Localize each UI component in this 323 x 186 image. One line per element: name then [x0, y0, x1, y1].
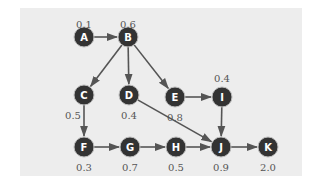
node-label: H: [172, 142, 180, 153]
node-label: C: [80, 90, 87, 101]
node-label: J: [218, 142, 223, 153]
node-value: 0.5: [168, 162, 184, 173]
node-value: 0.5: [65, 110, 81, 121]
node-label: I: [220, 92, 224, 103]
node-h: H0.5: [166, 137, 186, 173]
nodes-layer: A0.1B0.6C0.5D0.4E0.8I0.4F0.3G0.7H0.5J0.9…: [65, 19, 278, 173]
node-value: 0.8: [167, 112, 183, 123]
node-label: F: [81, 142, 88, 153]
dag-graph: A0.1B0.6C0.5D0.4E0.8I0.4F0.3G0.7H0.5J0.9…: [0, 0, 323, 186]
node-b: B0.6: [118, 19, 138, 48]
node-value: 0.7: [122, 162, 138, 173]
node-a: A0.1: [74, 19, 94, 48]
node-label: E: [172, 92, 179, 103]
node-f: F0.3: [74, 137, 94, 173]
node-c: C0.5: [65, 85, 94, 121]
node-label: D: [125, 90, 133, 101]
node-value: 0.1: [76, 19, 92, 30]
node-e: E0.8: [165, 87, 185, 123]
node-value: 0.4: [121, 110, 137, 121]
node-j: J0.9: [211, 137, 231, 173]
node-label: G: [126, 142, 134, 153]
edge-b-c: [91, 45, 122, 86]
node-value: 0.4: [214, 73, 230, 84]
node-label: K: [264, 142, 273, 153]
node-value: 0.3: [76, 162, 92, 173]
node-label: B: [124, 32, 132, 43]
node-k: K2.0: [258, 137, 278, 173]
edge-b-d: [128, 47, 129, 84]
node-g: G0.7: [120, 137, 140, 173]
edge-i-j: [221, 107, 222, 136]
node-d: D0.4: [119, 85, 139, 121]
node-value: 0.6: [120, 19, 136, 30]
node-i: I0.4: [212, 73, 232, 108]
edge-b-e: [134, 45, 168, 88]
node-label: A: [80, 32, 88, 43]
node-value: 0.9: [213, 162, 229, 173]
node-value: 2.0: [260, 162, 276, 173]
